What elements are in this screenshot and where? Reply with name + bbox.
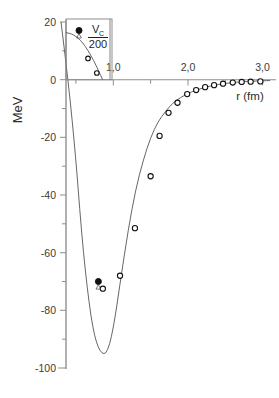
y-tick-label-minus20: -20 <box>41 131 56 143</box>
x-axis-title: r (fm) <box>236 90 264 102</box>
data-point-marker <box>239 79 244 84</box>
triangle-data-point-marker <box>96 285 101 289</box>
inset-label-subscript: C <box>99 30 104 37</box>
data-point-marker <box>185 91 190 96</box>
x-tick-label-1: 1,0 <box>106 61 121 73</box>
x-tick-label-3: 3,0 <box>255 61 270 73</box>
y-tick-label-minus100: -100 <box>35 362 56 374</box>
data-point-marker <box>203 85 208 90</box>
y-tick-labels: 20 0 -20 -40 -60 -80 -100 <box>35 16 56 374</box>
y-axis-title: MeV <box>10 96 25 123</box>
data-point-marker <box>166 110 171 115</box>
chart-svg: 20 0 -20 -40 -60 -80 -100 MeV 1,0 2,0 3,… <box>0 0 279 398</box>
data-point-marker <box>194 87 199 92</box>
potential-energy-chart: 20 0 -20 -40 -60 -80 -100 MeV 1,0 2,0 3,… <box>0 0 279 398</box>
potential-curve <box>61 22 270 354</box>
data-point-marker <box>230 80 235 85</box>
legend-triangle-icon <box>77 34 82 38</box>
data-point-marker <box>157 133 162 138</box>
data-point-marker <box>100 286 105 291</box>
data-point-marker <box>258 79 263 84</box>
data-point-marker <box>117 273 122 278</box>
x-tick-labels: 1,0 2,0 3,0 <box>106 61 270 73</box>
data-point-marker <box>148 174 153 179</box>
y-tick-label-0: 0 <box>50 74 56 86</box>
inset-data-point-marker <box>86 56 91 61</box>
data-point-marker <box>175 100 180 105</box>
x-tick-label-2: 2,0 <box>181 61 196 73</box>
filled-data-point-marker <box>95 279 101 285</box>
y-tick-label-minus40: -40 <box>41 189 56 201</box>
inset-label-denominator: 200 <box>89 38 107 50</box>
open-circle-data-points <box>100 79 263 292</box>
inset-data-point-marker <box>95 71 100 76</box>
data-point-marker <box>220 81 225 86</box>
y-tick-label-minus60: -60 <box>41 247 56 259</box>
data-point-marker <box>132 226 137 231</box>
y-tick-label-minus80: -80 <box>41 304 56 316</box>
legend-filled-circle-icon <box>76 28 82 34</box>
y-axis <box>58 20 66 369</box>
data-point-marker <box>211 83 216 88</box>
y-tick-label-20: 20 <box>44 16 56 28</box>
data-point-marker <box>248 79 253 84</box>
